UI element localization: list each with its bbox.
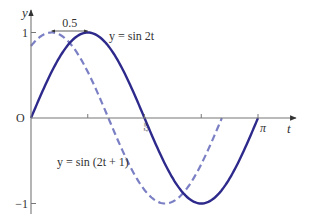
y-tick-label: 1: [22, 26, 28, 40]
series-sin2t-label: y = sin 2t: [109, 29, 155, 43]
x-tick-label: π: [260, 121, 267, 135]
series-sin2t-plus-1-label: y = sin (2t + 1): [57, 155, 129, 169]
sine-phase-shift-chart: π/2π 1−1 t y O y = sin 2t y = sin (2t + …: [0, 0, 309, 224]
origin-label: O: [16, 111, 25, 125]
phase-shift-label: 0.5: [62, 16, 77, 30]
x-tick-label: π/2: [142, 123, 150, 132]
y-tick-label: −1: [15, 197, 28, 211]
y-axis-label: y: [20, 5, 28, 20]
x-axis-label: t: [287, 121, 291, 136]
